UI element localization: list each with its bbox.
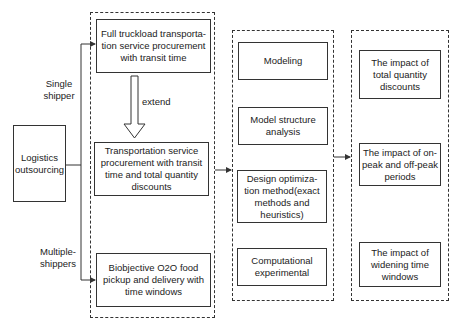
time-window-impact-label: The impact of widening time windows	[362, 247, 438, 283]
computational-label: Computational experimental	[240, 255, 324, 279]
peak-impact-box: The impact of on-peak and off-peak perio…	[359, 143, 441, 186]
logistics-outsourcing-box: Logistics outsourcing	[13, 125, 66, 202]
ftl-procurement-label: Full truckload transporta-tion service p…	[99, 28, 208, 64]
logistics-outsourcing-label: Logistics outsourcing	[15, 152, 64, 176]
modeling-label: Modeling	[264, 55, 303, 67]
multiple-shippers-label: Multiple-shippers	[30, 246, 86, 270]
model-structure-label: Model structure analysis	[241, 114, 325, 138]
tqd-impact-box: The impact of total quantity discounts	[359, 50, 441, 99]
design-optimization-label: Design optimiza-tion method(exact method…	[240, 173, 324, 221]
modeling-box: Modeling	[238, 42, 328, 80]
computational-box: Computational experimental	[237, 248, 327, 286]
tqd-procurement-box: Transportation service procurement with …	[94, 142, 209, 196]
single-shipper-label: Single shipper	[36, 78, 82, 102]
extend-label: extend	[142, 96, 182, 108]
design-optimization-box: Design optimiza-tion method(exact method…	[237, 170, 327, 223]
ftl-procurement-box: Full truckload transporta-tion service p…	[96, 19, 211, 73]
peak-impact-label: The impact of on-peak and off-peak perio…	[362, 147, 438, 183]
time-window-impact-box: The impact of widening time windows	[359, 242, 441, 287]
tqd-procurement-label: Transportation service procurement with …	[97, 145, 206, 193]
o2o-delivery-label: Biobjective O2O food pickup and delivery…	[99, 262, 208, 298]
tqd-impact-label: The impact of total quantity discounts	[362, 57, 438, 93]
o2o-delivery-box: Biobjective O2O food pickup and delivery…	[96, 253, 211, 307]
model-structure-box: Model structure analysis	[238, 107, 328, 145]
